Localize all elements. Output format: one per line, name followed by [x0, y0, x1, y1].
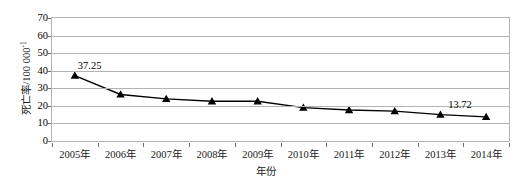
x-axis-tick-mark	[326, 143, 327, 147]
y-axis-tick-mark	[47, 123, 51, 124]
gridline	[52, 106, 509, 107]
gridline	[52, 71, 509, 72]
plot-area	[51, 17, 510, 142]
y-axis-tick-label: 0	[26, 136, 48, 146]
y-axis-tick-label: 50	[26, 48, 48, 58]
series-line	[75, 76, 486, 117]
y-axis-tick-label: 70	[26, 13, 48, 23]
y-axis-tick-label: 40	[26, 66, 48, 76]
x-axis-tick-mark	[189, 143, 190, 147]
x-axis-tick-mark	[509, 143, 510, 147]
x-axis-tick-mark	[98, 143, 99, 147]
y-axis-tick-mark	[47, 53, 51, 54]
gridline	[52, 88, 509, 89]
x-axis-tick-label: 2014年	[456, 149, 516, 161]
x-axis-tick-mark	[235, 143, 236, 147]
gridline	[52, 123, 509, 124]
x-axis-tick-mark	[281, 143, 282, 147]
gridline	[52, 53, 509, 54]
y-axis-tick-label: 10	[26, 118, 48, 128]
y-axis-tick-mark	[47, 141, 51, 142]
y-axis-tick-mark	[47, 106, 51, 107]
y-axis-tick-label: 30	[26, 83, 48, 93]
x-axis-tick-mark	[143, 143, 144, 147]
y-axis-tick-mark	[47, 88, 51, 89]
x-axis-tick-mark	[463, 143, 464, 147]
x-axis-tick-mark	[372, 143, 373, 147]
y-axis-tick-mark	[47, 18, 51, 19]
x-axis-title: 年份	[236, 166, 296, 178]
data-point-label: 13.72	[448, 99, 472, 110]
data-point-marker	[71, 71, 79, 78]
y-axis-tick-label: 60	[26, 31, 48, 41]
gridline	[52, 36, 509, 37]
y-axis-tick-label: 20	[26, 101, 48, 111]
mortality-rate-line-chart: 死亡率/100 000-1 010203040506070 2005年2006年…	[0, 0, 518, 188]
data-point-label: 37.25	[78, 60, 102, 71]
x-axis-tick-mark	[418, 143, 419, 147]
x-axis-tick-mark	[52, 143, 53, 147]
y-axis-tick-mark	[47, 36, 51, 37]
y-axis-tick-mark	[47, 71, 51, 72]
